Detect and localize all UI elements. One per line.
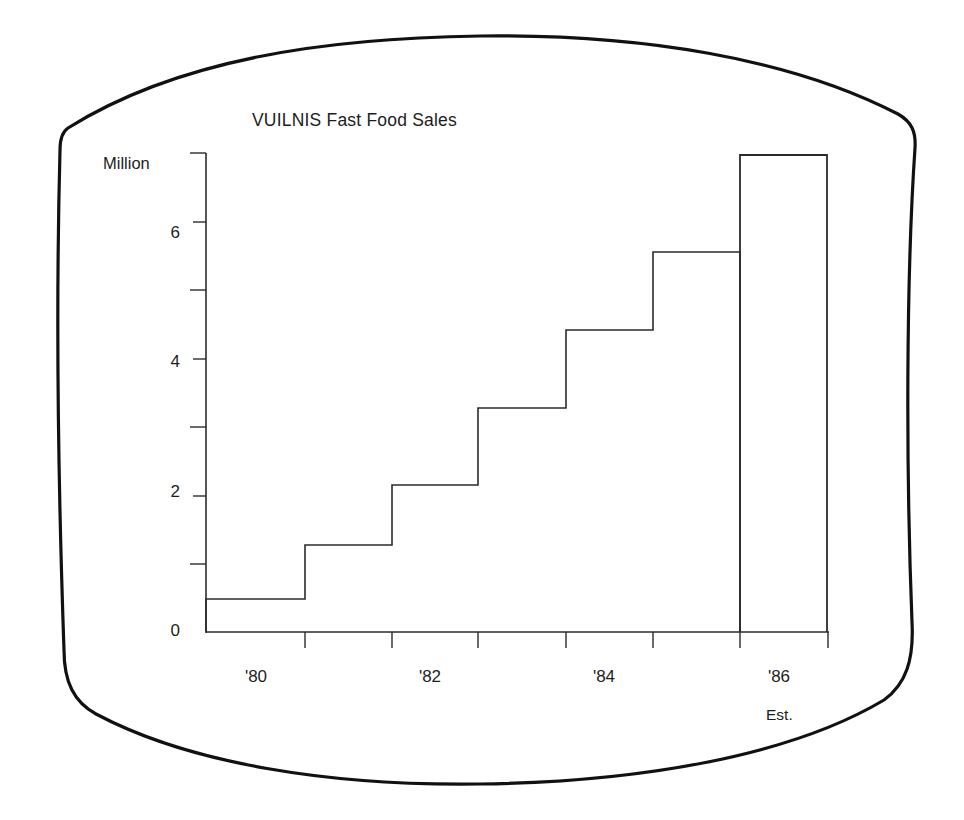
bar-estimated-86 bbox=[740, 155, 827, 632]
chart-page: VUILNIS Fast Food Sales Million 6 4 2 0 … bbox=[0, 0, 964, 820]
y-tick-label-0: 0 bbox=[140, 622, 180, 639]
y-tick-label-6: 6 bbox=[140, 224, 180, 241]
bar-step-outline bbox=[206, 252, 740, 632]
y-axis-ticks bbox=[190, 153, 206, 564]
x-tick-label-80: '80 bbox=[226, 668, 286, 685]
chart-title: VUILNIS Fast Food Sales bbox=[252, 112, 457, 130]
x-axis-ticks bbox=[305, 632, 828, 648]
y-tick-label-2: 2 bbox=[140, 483, 180, 500]
estimate-annotation: Est. bbox=[766, 707, 793, 723]
y-axis-unit-label: Million bbox=[103, 155, 150, 172]
y-tick-label-4: 4 bbox=[140, 353, 180, 370]
x-tick-label-82: '82 bbox=[400, 668, 460, 685]
x-tick-label-86: '86 bbox=[749, 668, 809, 685]
x-tick-label-84: '84 bbox=[574, 668, 634, 685]
bar-chart-plot bbox=[0, 0, 964, 820]
